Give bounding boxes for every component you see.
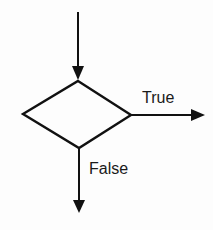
arrowhead-down-icon xyxy=(73,200,85,213)
flowchart-diagram: True False xyxy=(0,0,213,230)
arrowhead-down-icon xyxy=(72,66,84,80)
arrowhead-right-icon xyxy=(191,109,205,121)
false-label: False xyxy=(89,161,128,177)
decision-diamond xyxy=(23,81,131,148)
incoming-arrow xyxy=(72,12,84,80)
true-branch-arrow xyxy=(131,109,205,121)
flowchart-graphics xyxy=(0,0,213,230)
false-branch-arrow xyxy=(73,148,85,213)
true-label: True xyxy=(142,90,174,106)
